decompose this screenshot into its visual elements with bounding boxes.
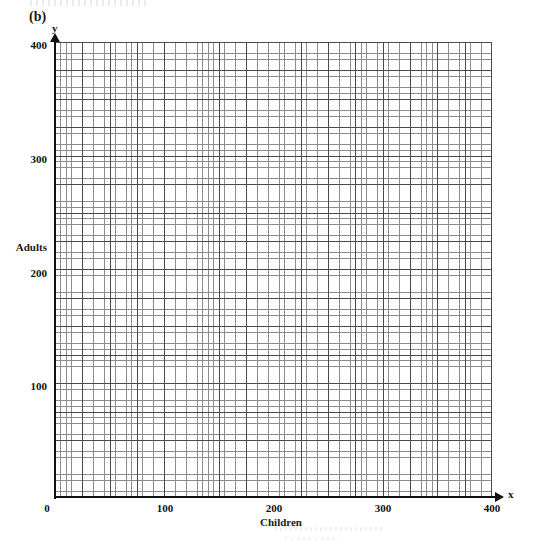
scan-artifact-bottom <box>275 527 385 531</box>
figure-page: (b) y x 400 300 200 100 0 100 200 300 40… <box>0 0 534 543</box>
scan-artifact-top <box>30 0 150 6</box>
y-tick-label-300: 300 <box>31 154 48 165</box>
part-label: (b) <box>29 10 46 24</box>
y-axis-arrow-icon <box>50 33 60 42</box>
x-axis-line <box>54 496 501 498</box>
x-tick-label-100: 100 <box>157 503 174 514</box>
y-tick-label-400: 400 <box>31 40 48 51</box>
scan-artifact-bottom-secondary <box>285 537 340 540</box>
graph-paper-grid <box>55 42 492 497</box>
y-axis-variable-label: y <box>52 23 58 34</box>
x-tick-label-200: 200 <box>266 503 283 514</box>
x-axis-arrow-icon <box>495 492 504 502</box>
y-tick-label-100: 100 <box>31 381 48 392</box>
y-axis-title: Adults <box>16 242 47 253</box>
x-tick-label-300: 300 <box>375 503 392 514</box>
y-axis-line <box>54 40 56 499</box>
y-tick-label-200: 200 <box>31 268 48 279</box>
x-tick-label-0: 0 <box>44 503 50 514</box>
x-tick-label-400: 400 <box>484 503 501 514</box>
x-axis-variable-label: x <box>508 489 514 500</box>
